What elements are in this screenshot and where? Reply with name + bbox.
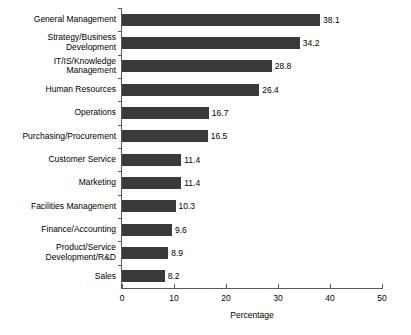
bar-value-label: 9.6 xyxy=(175,224,187,236)
bar xyxy=(122,107,209,119)
category-label: Sales xyxy=(0,272,116,282)
category-label: Customer Service xyxy=(0,155,116,165)
bar-value-label: 8.9 xyxy=(171,247,183,259)
bar xyxy=(122,37,300,49)
x-axis-tick xyxy=(278,284,279,289)
chart-row: Finance/Accounting9.6 xyxy=(0,218,411,241)
bar xyxy=(122,224,172,236)
bar-value-label: 38.1 xyxy=(323,14,340,26)
category-label: Purchasing/Procurement xyxy=(0,132,116,142)
x-axis-tick-label: 10 xyxy=(159,293,189,303)
category-label: Human Resources xyxy=(0,85,116,95)
bar xyxy=(122,130,208,142)
bar xyxy=(122,247,168,259)
category-label: General Management xyxy=(0,15,116,25)
category-label: Product/Service Development/R&D xyxy=(0,243,116,262)
chart-row: Strategy/Business Development34.2 xyxy=(0,31,411,54)
chart-row: Sales8.2 xyxy=(0,265,411,288)
bar-value-label: 16.7 xyxy=(212,107,229,119)
chart-row: Marketing11.4 xyxy=(0,171,411,194)
x-axis-tick xyxy=(226,284,227,289)
x-axis-tick xyxy=(382,284,383,289)
bar-value-label: 28.8 xyxy=(275,60,292,72)
bar-chart: General Management38.1Strategy/Business … xyxy=(0,0,411,335)
x-axis-tick xyxy=(330,284,331,289)
x-axis-title: Percentage xyxy=(122,310,382,320)
chart-row: Human Resources26.4 xyxy=(0,78,411,101)
chart-row: Facilities Management10.3 xyxy=(0,195,411,218)
bar-value-label: 11.4 xyxy=(184,154,200,166)
bar xyxy=(122,84,259,96)
x-axis-line xyxy=(121,288,383,289)
x-axis-tick-label: 0 xyxy=(107,293,137,303)
x-axis-tick-label: 20 xyxy=(211,293,241,303)
bar xyxy=(122,14,320,26)
bar xyxy=(122,154,181,166)
category-label: Marketing xyxy=(0,178,116,188)
chart-row: Operations16.7 xyxy=(0,101,411,124)
bar xyxy=(122,270,165,282)
bar-value-label: 10.3 xyxy=(179,200,196,212)
bar xyxy=(122,177,181,189)
chart-rows: General Management38.1Strategy/Business … xyxy=(0,8,411,288)
chart-row: IT/IS/Knowledge Management28.8 xyxy=(0,55,411,78)
x-axis-tick xyxy=(122,284,123,289)
bar-value-label: 16.5 xyxy=(211,130,228,142)
chart-row: Product/Service Development/R&D8.9 xyxy=(0,241,411,264)
category-label: Operations xyxy=(0,108,116,118)
category-label: Facilities Management xyxy=(0,202,116,212)
bar xyxy=(122,60,272,72)
x-axis-tick-label: 30 xyxy=(263,293,293,303)
bar-value-label: 26.4 xyxy=(262,84,279,96)
category-label: Strategy/Business Development xyxy=(0,33,116,52)
x-axis-tick xyxy=(174,284,175,289)
chart-row: Purchasing/Procurement16.5 xyxy=(0,125,411,148)
bar-value-label: 11.4 xyxy=(184,177,200,189)
x-axis-tick-label: 50 xyxy=(367,293,397,303)
bar xyxy=(122,200,176,212)
bar-value-label: 34.2 xyxy=(303,37,320,49)
category-label: IT/IS/Knowledge Management xyxy=(0,57,116,76)
bar-value-label: 8.2 xyxy=(168,270,180,282)
chart-row: General Management38.1 xyxy=(0,8,411,31)
x-axis-tick-label: 40 xyxy=(315,293,345,303)
chart-row: Customer Service11.4 xyxy=(0,148,411,171)
category-label: Finance/Accounting xyxy=(0,225,116,235)
